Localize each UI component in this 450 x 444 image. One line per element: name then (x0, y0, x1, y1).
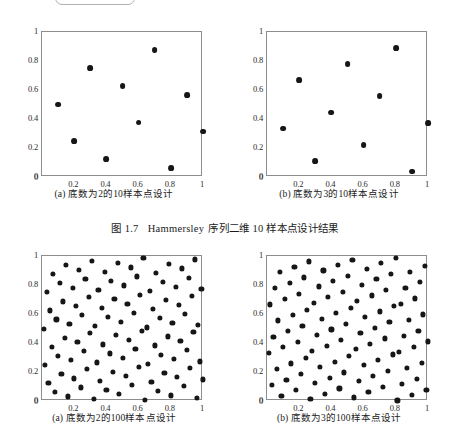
data-point (120, 83, 126, 89)
data-point (73, 303, 78, 308)
data-point (118, 319, 123, 324)
data-point (200, 377, 205, 382)
data-point (188, 366, 193, 371)
data-point (168, 165, 174, 171)
data-point (60, 299, 65, 304)
data-point (89, 258, 94, 263)
data-point (393, 45, 399, 51)
data-point (290, 312, 295, 317)
data-point (47, 308, 52, 313)
data-point (167, 261, 172, 266)
data-point (303, 355, 308, 360)
data-point (338, 338, 343, 343)
data-point (147, 289, 152, 294)
data-point (94, 360, 99, 365)
data-point (51, 272, 56, 277)
data-point (52, 389, 57, 394)
data-point (413, 296, 418, 301)
figure-caption: 图 1.7Hammersley序列二维 10 样本点设计结果 (0, 220, 450, 235)
figure-number: 图 1.7 (111, 223, 138, 234)
data-point (276, 318, 281, 323)
data-point (55, 102, 61, 108)
data-point (268, 302, 273, 307)
data-point (117, 392, 122, 397)
data-point (411, 344, 416, 349)
data-point (425, 339, 430, 344)
data-point (316, 284, 321, 289)
data-point (72, 376, 77, 381)
data-point (327, 375, 332, 380)
data-point (171, 356, 176, 361)
data-point (154, 270, 159, 275)
data-point (78, 385, 83, 390)
data-point (358, 330, 363, 335)
data-point (67, 321, 72, 326)
data-point (139, 328, 144, 333)
data-point (122, 283, 127, 288)
data-point (305, 307, 310, 312)
data-point (351, 395, 356, 400)
data-point (181, 384, 186, 389)
data-point (96, 287, 101, 292)
y-axis-tick-label: 0.8 (18, 55, 38, 65)
data-point (162, 370, 167, 375)
data-point (345, 273, 350, 278)
x-axis-tick-label: 0 (259, 172, 263, 182)
data-point (387, 320, 392, 325)
data-point (292, 264, 297, 269)
data-point (343, 321, 348, 326)
x-axis-tick-label: 0 (259, 396, 263, 406)
data-point (49, 344, 54, 349)
y-axis-tick-label: 0.4 (18, 113, 38, 123)
data-point (152, 343, 157, 348)
data-point (293, 388, 298, 393)
y-axis-tick-label: 0.8 (18, 279, 38, 289)
data-point (150, 307, 155, 312)
data-point (409, 392, 414, 397)
subfigure-caption: (b) 底数为3的10样本点设计 (243, 186, 435, 200)
data-point (93, 324, 98, 329)
data-point (125, 301, 130, 306)
y-axis-tick-label: 0.2 (243, 142, 263, 152)
data-point (408, 269, 413, 274)
data-point (199, 286, 204, 291)
data-point (115, 260, 120, 265)
data-point (146, 361, 151, 366)
data-point (179, 266, 184, 271)
data-point (271, 334, 276, 339)
data-point (101, 342, 106, 347)
data-point (297, 291, 302, 296)
data-point (71, 138, 77, 144)
data-point (107, 351, 112, 356)
data-point (136, 120, 142, 126)
data-point (159, 352, 164, 357)
data-point (398, 301, 403, 306)
data-point (97, 378, 102, 383)
data-point (342, 370, 347, 375)
data-point (371, 373, 376, 378)
data-point (409, 169, 415, 175)
y-axis-tick-label: 0.4 (18, 337, 38, 347)
data-point (289, 361, 294, 366)
data-point (269, 382, 274, 387)
data-point (131, 310, 136, 315)
data-point (308, 397, 313, 402)
data-point (392, 304, 397, 309)
data-point (361, 363, 366, 368)
data-point (419, 360, 424, 365)
data-point (272, 286, 277, 291)
data-point (126, 337, 131, 342)
data-point (356, 379, 361, 384)
y-axis-tick-label: 0.4 (243, 113, 263, 123)
data-point (329, 327, 334, 332)
subfigure-caption: (a) 底数为2的100样本点设计 (18, 410, 210, 424)
chart-panel-base2-10: 00.20.40.60.8100.20.40.60.81(a) 底数为2的10样… (18, 28, 210, 216)
data-point (287, 280, 292, 285)
data-point (86, 294, 91, 299)
data-point (404, 366, 409, 371)
data-point (322, 391, 327, 396)
data-point (414, 376, 419, 381)
data-point (348, 305, 353, 310)
y-axis-tick-label: 1 (18, 26, 38, 36)
data-point (326, 295, 331, 300)
